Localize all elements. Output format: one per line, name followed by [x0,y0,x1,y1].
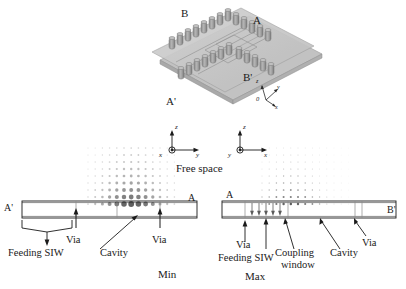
field-dot [95,161,96,162]
field-dot [348,169,349,170]
field-dot [304,203,306,205]
field-dot [261,182,262,183]
field-dot [137,161,139,163]
field-dot [290,189,292,191]
endpoint-label-a-min: A [188,193,195,203]
field-dot [290,203,293,206]
field-dot [304,189,306,191]
field-dot [348,190,349,191]
field-dot [334,190,335,191]
field-dot [167,147,168,148]
field-dot [341,190,342,191]
field-dot [109,168,111,170]
field-dot [297,168,298,169]
field-dot [312,148,313,149]
field-dot [152,182,154,184]
field-dot [138,147,140,149]
field-dot [283,155,284,156]
field-dot [87,154,88,155]
annotation-coupling-window-max-line2: window [281,260,315,271]
field-dot [166,189,168,191]
field-dot [341,204,342,205]
field-dot [268,203,270,205]
field-dot [167,168,168,169]
annotation-cavity-max: Cavity [330,248,358,259]
endpoint-label-b-prime-max: B' [387,205,395,215]
field-dot [144,175,146,177]
field-dot [311,203,313,205]
annotation-via-min-right: Via [152,235,167,246]
field-dot [276,155,277,156]
field-dot [159,182,161,184]
field-dot [136,195,141,200]
field-dot [122,195,127,200]
field-dot [283,148,284,149]
field-dot [174,203,176,205]
field-dot [87,203,89,205]
field-dot [116,154,118,156]
axis-origin-3d: 0 [256,96,259,103]
field-dot [123,147,125,149]
field-dot [283,196,285,198]
leader-cavity-min [100,215,138,249]
field-dot [326,196,327,197]
field-dot [137,175,140,178]
field-dots-min [87,147,175,207]
field-dot [290,161,291,162]
field-dot [122,188,126,192]
field-dot [94,203,96,205]
field-dot [276,168,277,169]
field-dot [305,161,306,162]
field-dot [305,155,306,156]
field-dot [261,189,262,190]
field-dot [115,182,118,185]
field-dot [334,148,335,149]
axis-label-x-3d: x [275,104,278,110]
field-dot [297,161,298,162]
field-dot [297,182,299,184]
field-dot [290,175,291,176]
corner-label-b-prime: B' [243,72,252,83]
field-dot [312,196,314,198]
field-dot [341,169,342,170]
field-dot [319,196,320,197]
field-dot [348,155,349,156]
field-dot [348,183,349,184]
field-dot [174,161,175,162]
field-dot [116,175,118,177]
field-dot [283,168,284,169]
field-dot [174,154,175,155]
field-dot [130,161,132,163]
annotation-via-min-left: Via [66,235,81,246]
field-dot [123,154,125,156]
field-dot [276,161,277,162]
field-dot [276,175,277,176]
field-dot [130,147,132,149]
field-dot [116,161,118,163]
field-dots-max [261,148,349,206]
field-dot [341,176,342,177]
endpoint-label-a-prime-min: A' [4,203,13,213]
field-dot [276,182,277,183]
axis-label-z-3d: z [256,78,258,84]
field-dot [143,202,148,207]
field-dot [319,182,320,183]
field-dot [334,155,335,156]
field-dot [87,175,88,176]
field-dot [101,196,104,199]
field-dot [87,147,88,148]
field-dot [290,168,291,169]
leader-cavity-max [319,218,340,249]
field-dot [174,168,175,169]
leader-feeding-siw-max [264,218,269,249]
leader-via-max-right [354,218,366,236]
field-dot [167,154,168,155]
field-dot [130,168,132,170]
field-dot [348,176,349,177]
field-dot [166,182,168,184]
corner-label-a-prime: A' [166,96,176,107]
field-dot [102,161,103,162]
field-dot [108,182,110,184]
field-dot [130,181,133,184]
annotation-coupling-window-max-line1: Coupling [275,248,314,259]
